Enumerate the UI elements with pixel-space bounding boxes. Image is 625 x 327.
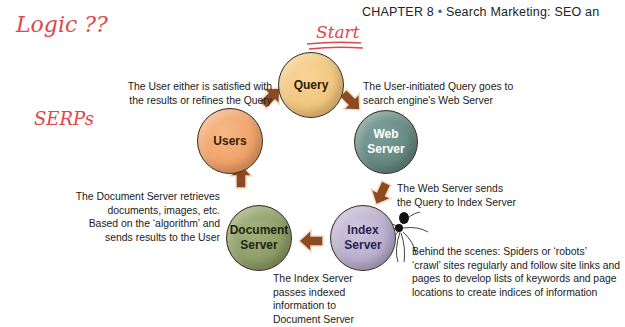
node-web-server-label-1: Web [367, 127, 404, 142]
node-document-server-label-2: Server [230, 238, 289, 253]
node-users-label: Users [213, 134, 246, 149]
caption-query-to-web: The User-initiated Query goes to search … [363, 80, 513, 107]
node-query-label: Query [294, 78, 329, 93]
node-document-server: Document Server [226, 205, 292, 271]
arrow-index-to-document [299, 230, 323, 252]
node-query: Query [278, 52, 344, 118]
node-index-server-label-1: Index [344, 223, 381, 238]
node-index-server: Index Server [330, 205, 396, 271]
caption-web-to-index: The Web Server sends the Query to Index … [397, 182, 516, 209]
arrow-web-to-index [366, 178, 396, 209]
node-web-server: Web Server [354, 110, 418, 174]
node-web-server-label-2: Server [367, 142, 404, 157]
node-users: Users [197, 108, 263, 174]
node-index-server-label-2: Server [344, 238, 381, 253]
caption-index-to-document: The Index Server passes indexed informat… [273, 272, 354, 327]
node-document-server-label-1: Document [230, 223, 289, 238]
caption-spiders: Behind the scenes: Spiders or ‘robots’ ‘… [412, 245, 620, 300]
caption-document-to-users: The Document Server retrieves documents,… [40, 190, 220, 245]
caption-users-to-query: The User either is satisfied with the re… [112, 80, 272, 107]
